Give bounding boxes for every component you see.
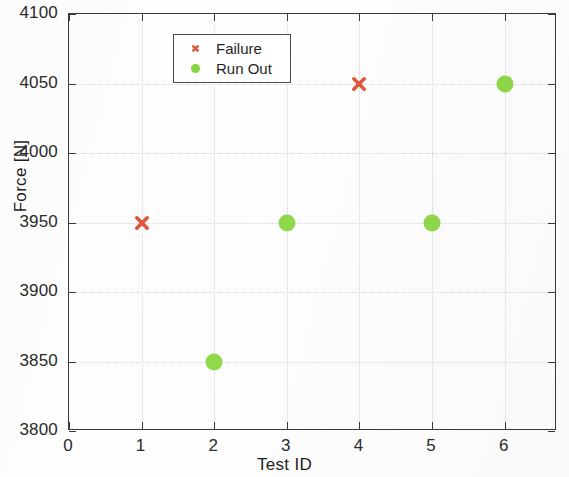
x-tick-label: 2 [208, 436, 218, 456]
legend-item-label: Run Out [212, 60, 283, 77]
gridline-horizontal [69, 292, 555, 293]
y-axis-tick [69, 153, 76, 154]
gridline-horizontal [69, 223, 555, 224]
x-tick-label: 1 [136, 436, 146, 456]
x-axis-tick [142, 14, 143, 21]
y-tick-label: 3850 [0, 351, 58, 371]
scatter-chart-figure: Force [N] 3800385039003950400040504100 0… [0, 0, 569, 477]
x-axis-tick [142, 422, 143, 429]
y-tick-label: 4000 [0, 142, 58, 162]
x-axis-tick [214, 14, 215, 21]
y-axis-tick [548, 292, 555, 293]
y-tick-label: 4100 [0, 3, 58, 23]
gridline-vertical [359, 14, 360, 429]
gridline-vertical [142, 14, 143, 429]
gridline-vertical [505, 14, 506, 429]
y-axis-tick [548, 223, 555, 224]
y-axis-tick [69, 223, 76, 224]
y-tick-label: 3900 [0, 281, 58, 301]
x-tick-label: 5 [426, 436, 436, 456]
x-axis-tick [69, 14, 70, 21]
y-axis-tick [69, 362, 76, 363]
x-marker-icon [178, 43, 212, 54]
y-axis-tick [548, 14, 555, 15]
x-tick-label: 0 [63, 436, 73, 456]
y-axis-tick [548, 153, 555, 154]
x-tick-label: 6 [499, 436, 509, 456]
plot-area: FailureRun Out [68, 13, 556, 430]
x-tick-label: 3 [281, 436, 291, 456]
x-axis-tick [505, 422, 506, 429]
x-axis-tick [214, 422, 215, 429]
x-axis-tick [287, 14, 288, 21]
circle-marker-icon [178, 64, 212, 73]
y-tick-label: 3800 [0, 420, 58, 440]
legend-item[interactable]: Failure [174, 38, 290, 58]
y-axis-tick [69, 14, 76, 15]
x-axis-tick [287, 422, 288, 429]
legend[interactable]: FailureRun Out [173, 34, 291, 83]
y-axis-tick [548, 431, 555, 432]
x-axis-tick [505, 14, 506, 21]
gridline-vertical [432, 14, 433, 429]
gridline-horizontal [69, 153, 555, 154]
y-axis-tick [69, 292, 76, 293]
y-axis-tick [548, 84, 555, 85]
y-tick-label: 3950 [0, 212, 58, 232]
x-axis-label: Test ID [0, 455, 569, 475]
y-axis-tick [69, 431, 76, 432]
legend-item-label: Failure [212, 40, 283, 57]
gridline-horizontal [69, 84, 555, 85]
x-axis-tick [359, 422, 360, 429]
x-axis-tick [432, 14, 433, 21]
x-axis-tick [432, 422, 433, 429]
y-axis-tick [548, 362, 555, 363]
y-axis-tick [69, 84, 76, 85]
legend-item[interactable]: Run Out [174, 58, 290, 78]
x-axis-tick [359, 14, 360, 21]
x-axis-tick [69, 422, 70, 429]
x-tick-label: 4 [354, 436, 364, 456]
y-tick-label: 4050 [0, 73, 58, 93]
gridline-horizontal [69, 362, 555, 363]
